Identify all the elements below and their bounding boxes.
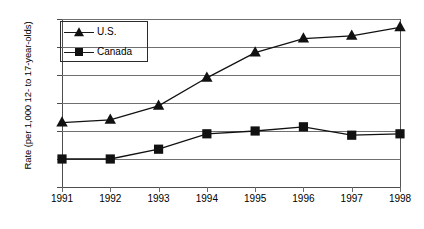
data-point-marker	[57, 154, 66, 163]
data-point-marker	[395, 129, 404, 138]
data-point-marker	[299, 122, 308, 131]
line-chart: Rate (per 1,000 12- to 17-year-olds) 0.0…	[0, 0, 424, 229]
legend-marker-triangle-icon	[61, 23, 97, 41]
data-point-marker	[347, 131, 356, 140]
data-point-marker	[202, 129, 211, 138]
data-point-marker	[298, 32, 309, 42]
data-point-marker	[106, 154, 115, 163]
data-point-marker	[394, 21, 405, 31]
data-point-marker	[154, 145, 163, 154]
data-point-marker	[153, 99, 164, 109]
data-point-marker	[201, 71, 212, 81]
legend-marker-square-icon	[61, 43, 97, 61]
data-point-marker	[251, 126, 260, 135]
legend-item-canada: Canada	[61, 42, 149, 62]
data-point-marker	[56, 116, 67, 126]
legend: U.S. Canada	[60, 21, 148, 62]
legend-label-us: U.S.	[97, 27, 116, 37]
legend-item-us: U.S.	[61, 22, 149, 42]
legend-label-canada: Canada	[97, 47, 132, 57]
